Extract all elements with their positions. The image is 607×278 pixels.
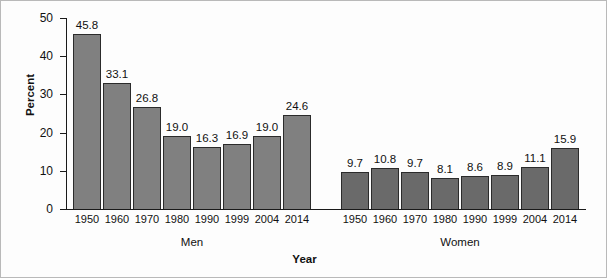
bar-women-1970 (401, 172, 429, 209)
bar-value-label: 26.8 (127, 92, 167, 104)
bar-value-label: 24.6 (277, 100, 317, 112)
bar-value-label: 33.1 (97, 68, 137, 80)
y-axis-tick (60, 18, 66, 19)
bar-men-2004 (253, 136, 281, 209)
bar-value-label: 11.1 (515, 152, 555, 164)
bar-women-1980 (431, 178, 459, 209)
y-axis-tick-label: 0 (13, 203, 53, 215)
bar-men-1950 (73, 34, 101, 209)
x-axis-tick-label: 2014 (277, 213, 317, 225)
bar-chart-figure: 01020304050 Percent 45.8195033.1196026.8… (0, 0, 607, 278)
x-axis-title: Year (1, 253, 607, 265)
y-axis-tick-label: 10 (13, 165, 53, 177)
bar-men-1980 (163, 136, 191, 209)
y-axis-title: Percent (24, 74, 36, 116)
bar-men-1999 (223, 144, 251, 209)
y-axis-tick (60, 209, 66, 210)
y-axis-line (66, 18, 67, 209)
y-axis-tick (60, 133, 66, 134)
bar-men-2014 (283, 115, 311, 209)
x-axis-line (66, 209, 586, 210)
y-axis-tick-label: 50 (13, 12, 53, 24)
y-axis-tick-label: 20 (13, 127, 53, 139)
bar-value-label: 15.9 (545, 133, 585, 145)
group-label-men: Men (73, 236, 311, 248)
y-axis-tick-label: 40 (13, 50, 53, 62)
bar-value-label: 19.0 (247, 121, 287, 133)
bar-women-1960 (371, 168, 399, 209)
bar-women-1950 (341, 172, 369, 209)
bar-women-2004 (521, 167, 549, 209)
x-axis-tick-label: 2014 (545, 213, 585, 225)
group-label-women: Women (341, 236, 579, 248)
bar-women-2014 (551, 148, 579, 209)
y-axis-tick (60, 94, 66, 95)
bar-men-1990 (193, 147, 221, 209)
y-axis-tick (60, 56, 66, 57)
bar-women-1990 (461, 176, 489, 209)
y-axis-tick (60, 171, 66, 172)
bar-value-label: 45.8 (67, 19, 107, 31)
bar-women-1999 (491, 175, 519, 209)
